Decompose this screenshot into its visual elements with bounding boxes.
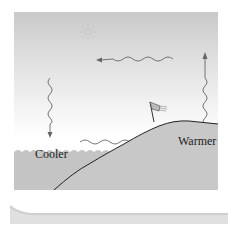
diagram-panel: Cooler Warmer	[14, 12, 218, 190]
diagram-canvas	[14, 12, 218, 190]
upper-return-flow-arrow-icon	[96, 57, 173, 63]
sinking-air-arrow-icon	[48, 78, 53, 138]
cooler-label: Cooler	[35, 147, 68, 162]
windsock-flag-icon	[150, 102, 167, 122]
sun-icon	[80, 24, 96, 40]
panel-shadow	[10, 190, 228, 232]
warmer-label: Warmer	[178, 134, 216, 149]
